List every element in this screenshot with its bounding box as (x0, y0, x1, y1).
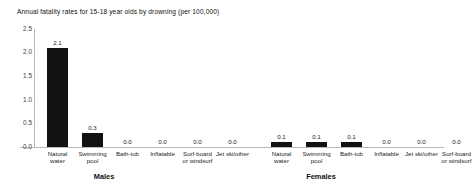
bar-value-label: 0.0 (443, 139, 471, 145)
bar (341, 142, 362, 147)
group-label-males: Males (64, 172, 144, 181)
bar-value-label: 0.0 (114, 139, 142, 145)
bar (47, 48, 68, 147)
category-label: Surf-board or windsurf (440, 150, 473, 164)
bar (271, 142, 292, 147)
bar-value-label: 0.1 (338, 134, 366, 140)
category-label: Bath-tub (335, 150, 368, 157)
bar-value-label: 0.1 (268, 134, 296, 140)
bar (306, 142, 327, 147)
category-label: Jet ski/other (405, 150, 438, 157)
category-label: Swimming pool (300, 150, 333, 164)
bar-value-label: 0.0 (408, 139, 436, 145)
category-label: Inflatable (146, 150, 179, 157)
bar-value-label: 0.3 (79, 125, 107, 131)
category-label: Jet ski/other (216, 150, 249, 157)
category-label: Natural water (41, 150, 74, 164)
category-label: Inflatable (370, 150, 403, 157)
bar-value-label: 0.0 (184, 139, 212, 145)
bar-value-label: 0.0 (149, 139, 177, 145)
bar-value-label: 0.1 (303, 134, 331, 140)
category-label: Bath-tub (111, 150, 144, 157)
bar (82, 133, 103, 147)
category-label: Surf-board or windsurf (181, 150, 214, 164)
group-label-females: Females (281, 172, 361, 181)
category-label: Swimming pool (76, 150, 109, 164)
bar-value-label: 0.0 (219, 139, 247, 145)
bar-value-label: 0.0 (373, 139, 401, 145)
bar-value-label: 2.1 (44, 40, 72, 46)
category-label: Natural water (265, 150, 298, 164)
